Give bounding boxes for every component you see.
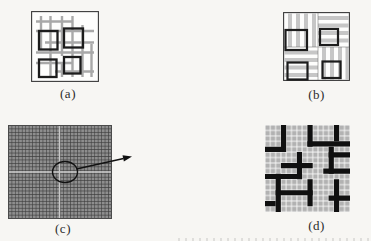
panel-b — [283, 12, 350, 81]
panel-a-graphic — [31, 11, 99, 82]
panel-c — [8, 125, 136, 219]
panel-a — [31, 11, 99, 82]
panel-c-graphic — [8, 125, 136, 219]
caption-c: (c) — [12, 222, 114, 236]
panel-b-graphic — [283, 12, 350, 81]
figure-canvas: (a) — [0, 0, 371, 241]
caption-b: (b) — [283, 88, 350, 102]
panel-d-graphic — [265, 125, 350, 212]
caption-a: (a) — [34, 87, 102, 101]
panel-d — [265, 125, 350, 212]
caption-d: (d) — [274, 219, 359, 233]
